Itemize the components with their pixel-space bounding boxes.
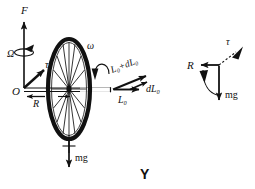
vector-Omega-label: Ω — [7, 48, 14, 59]
origin-label: O — [12, 85, 20, 97]
vector-omega-label: ω — [87, 40, 94, 51]
figure-root: F Ω τ O R — [0, 0, 255, 189]
figure-caption: Y — [140, 166, 150, 182]
vector-L0-label: L₀ — [117, 94, 128, 105]
vector-R-right-label: R — [186, 59, 194, 71]
vector-mg-label: mg — [75, 152, 88, 163]
vector-F-label: F — [20, 4, 28, 16]
vector-R-label: R — [32, 98, 39, 109]
axle-body — [80, 88, 111, 92]
gyroscope-figure-canvas: F Ω τ O R — [0, 0, 255, 189]
wheel-hub — [66, 86, 71, 93]
vector-tau-right-label: τ — [226, 36, 230, 47]
gyroscope-wheel — [48, 39, 90, 139]
vector-mg-right-label: mg — [225, 89, 238, 100]
vector-dL0-label: dL₀ — [146, 83, 161, 94]
